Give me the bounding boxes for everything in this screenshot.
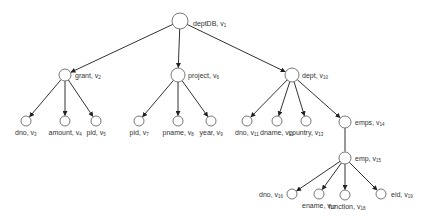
node-label-v8: pname, v8 — [163, 129, 194, 139]
node-label-v11: dno, v11 — [235, 129, 259, 139]
edge-v1-v10 — [187, 24, 285, 71]
node-circle-v5 — [91, 116, 101, 126]
node-label-v6: project, v6 — [188, 72, 219, 82]
node-subscript: 16 — [278, 194, 283, 199]
node-circle-v2 — [59, 69, 71, 81]
node-circle-v9 — [206, 116, 216, 126]
node-circle-v11 — [242, 116, 252, 126]
node-name: pname — [163, 129, 184, 136]
node-subscript: 6 — [216, 75, 219, 80]
node-label-v5: pid, v5 — [87, 129, 106, 139]
node-name: grant — [75, 72, 91, 79]
edge-v6-v7 — [143, 80, 174, 116]
node-subscript: 9 — [220, 132, 223, 137]
node-label-v13: country, v13 — [289, 129, 324, 139]
node-label-v16: dno, v16 — [259, 191, 283, 201]
node-subscript: 2 — [98, 75, 101, 80]
node-circle-v4 — [60, 116, 70, 126]
node-label-v1: deptDB, v1 — [193, 20, 226, 30]
node-circle-v15 — [339, 152, 351, 164]
node-subscript: 13 — [318, 132, 323, 137]
node-name: dname — [260, 129, 281, 136]
node-subscript: 5 — [103, 132, 106, 137]
node-label-v18: function, v18 — [329, 203, 366, 213]
edge-v10-v11 — [251, 80, 287, 117]
node-name: pid — [130, 129, 139, 136]
node-name: dept — [302, 72, 316, 79]
node-name: amount — [49, 129, 72, 136]
node-label-v3: dno, v3 — [15, 129, 37, 139]
node-subscript: 3 — [34, 132, 37, 137]
node-name: dno — [235, 129, 247, 136]
node-subscript: 18 — [360, 206, 365, 211]
node-label-v9: year, v9 — [200, 129, 223, 139]
node-circle-v7 — [134, 116, 144, 126]
node-circle-v1 — [172, 13, 188, 29]
node-name: function — [329, 203, 354, 210]
edge-v1-v6 — [178, 29, 179, 68]
node-name: country — [289, 129, 311, 136]
node-name: emps — [355, 119, 372, 126]
node-circle-v16 — [287, 189, 297, 199]
node-subscript: 19 — [408, 194, 413, 199]
node-subscript: 8 — [191, 132, 194, 137]
node-circle-v10 — [285, 68, 299, 82]
edge-v15-v19 — [349, 162, 377, 190]
node-subscript: 15 — [376, 158, 381, 163]
node-label-v4: amount, v4 — [49, 129, 82, 139]
nodes — [21, 13, 386, 200]
node-name: dno — [15, 129, 27, 136]
node-subscript: 1 — [224, 23, 227, 28]
edge-v1-v2 — [71, 24, 173, 72]
node-circle-v6 — [171, 68, 185, 82]
edge-v15-v16 — [297, 161, 340, 191]
node-name: project — [188, 72, 209, 79]
edges — [30, 24, 378, 191]
node-circle-v13 — [301, 116, 311, 126]
tree-diagram-canvas — [0, 0, 427, 224]
node-subscript: 7 — [146, 132, 149, 137]
edge-v6-v9 — [182, 81, 208, 117]
edge-v10-v13 — [294, 82, 304, 116]
node-subscript: 4 — [79, 132, 82, 137]
node-label-v15: emp, v15 — [355, 155, 381, 165]
node-label-v7: pid, v7 — [130, 129, 149, 139]
node-name: ename — [302, 202, 323, 209]
edge-v2-v5 — [68, 80, 93, 116]
node-label-v10: dept, v10 — [302, 72, 328, 82]
node-label-v19: eid, v19 — [391, 191, 413, 201]
node-subscript: 11 — [254, 132, 259, 137]
node-circle-v14 — [339, 116, 351, 128]
node-subscript: 14 — [380, 122, 385, 127]
node-circle-v12 — [272, 116, 282, 126]
node-circle-v19 — [376, 189, 386, 199]
node-subscript: 10 — [323, 75, 328, 80]
edge-v2-v3 — [30, 80, 62, 117]
tree-diagram: deptDB, v1grant, v2dno, v3amount, v4pid,… — [0, 0, 427, 224]
node-name: dno — [259, 191, 271, 198]
node-name: year — [200, 129, 213, 136]
node-label-v14: emps, v14 — [355, 119, 385, 129]
node-name: eid — [391, 191, 400, 198]
node-circle-v8 — [173, 116, 183, 126]
node-circle-v18 — [340, 190, 350, 200]
node-circle-v3 — [21, 116, 31, 126]
node-name: emp — [355, 155, 369, 162]
node-name: pid — [87, 129, 96, 136]
node-name: deptDB — [193, 20, 216, 27]
node-label-v2: grant, v2 — [75, 72, 101, 82]
node-circle-v17 — [314, 189, 324, 199]
